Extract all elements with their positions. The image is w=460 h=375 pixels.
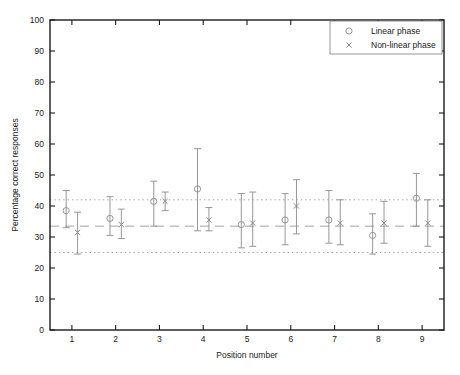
data-point [63, 191, 70, 228]
x-tick-label: 8 [376, 334, 381, 344]
data-point [162, 192, 169, 211]
x-tick-label: 2 [113, 334, 118, 344]
y-tick-label: 40 [35, 201, 45, 211]
data-point [424, 200, 431, 247]
data-point [205, 208, 212, 231]
series-linear-phase [63, 149, 420, 254]
data-point [74, 212, 81, 254]
y-tick-label: 80 [35, 77, 45, 87]
data-point [106, 197, 113, 236]
scatter-plot: 0102030405060708090100 123456789 Percent… [0, 0, 460, 375]
reference-lines [50, 200, 444, 253]
data-point [249, 192, 256, 246]
axes-frame [50, 20, 444, 330]
x-tick-label: 9 [420, 334, 425, 344]
legend-label: Linear phase [371, 26, 420, 36]
data-point [369, 214, 376, 254]
series-nonlinear-phase [74, 180, 431, 254]
data-point [194, 149, 201, 231]
x-tick-label: 7 [332, 334, 337, 344]
x-tick-label: 3 [157, 334, 162, 344]
x-tick-label: 5 [245, 334, 250, 344]
x-tick-label: 1 [70, 334, 75, 344]
data-series-layer [63, 149, 432, 254]
y-tick-label: 50 [35, 170, 45, 180]
y-tick-label: 0 [39, 325, 44, 335]
data-point [282, 194, 289, 245]
x-tick-label: 4 [201, 334, 206, 344]
data-point [118, 209, 125, 238]
x-tick-label: 6 [288, 334, 293, 344]
y-tick-label: 90 [35, 46, 45, 56]
y-axis-label: Percentage correct responses [10, 118, 20, 231]
y-tick-label: 70 [35, 108, 45, 118]
y-tick-label: 10 [35, 294, 45, 304]
legend: Linear phaseNon-linear phase [330, 21, 442, 54]
figure: 0102030405060708090100 123456789 Percent… [0, 0, 460, 375]
data-point [337, 200, 344, 245]
x-axis-label: Position number [216, 350, 278, 360]
data-point [381, 201, 388, 243]
data-point [325, 191, 332, 244]
y-axis-ticks: 0102030405060708090100 [30, 15, 444, 335]
y-tick-label: 30 [35, 232, 45, 242]
data-point [150, 181, 157, 226]
axes-layer [50, 20, 444, 330]
data-point [238, 194, 245, 248]
legend-label: Non-linear phase [371, 40, 436, 50]
data-point [413, 173, 420, 226]
x-axis-ticks: 123456789 [70, 20, 425, 344]
y-tick-label: 100 [30, 15, 44, 25]
y-tick-label: 20 [35, 263, 45, 273]
y-tick-label: 60 [35, 139, 45, 149]
